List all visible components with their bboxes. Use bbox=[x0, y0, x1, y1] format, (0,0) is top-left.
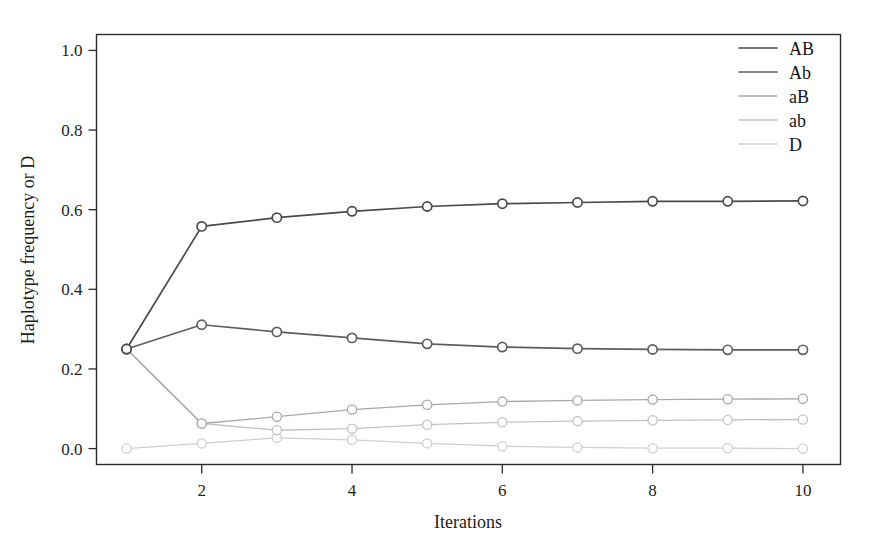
data-point-marker bbox=[197, 439, 206, 448]
data-point-marker bbox=[347, 424, 356, 433]
data-point-marker bbox=[798, 394, 807, 403]
data-point-marker bbox=[498, 342, 507, 351]
data-point-marker bbox=[648, 345, 657, 354]
legend-label-ab: ab bbox=[789, 111, 806, 131]
legend-label-Ab: Ab bbox=[789, 63, 811, 83]
legend-label-AB: AB bbox=[789, 39, 814, 59]
data-point-marker bbox=[197, 320, 206, 329]
data-point-marker bbox=[197, 419, 206, 428]
x-tick-label: 6 bbox=[498, 481, 507, 500]
data-point-marker bbox=[272, 426, 281, 435]
data-point-marker bbox=[423, 202, 432, 211]
chart-figure: 0.00.20.40.60.81.0 246810 ABAbaBabD Iter… bbox=[0, 0, 871, 559]
data-point-marker bbox=[648, 444, 657, 453]
y-axis-title: Haplotype frequency or D bbox=[18, 156, 38, 344]
data-point-marker bbox=[122, 444, 131, 453]
data-point-marker bbox=[498, 397, 507, 406]
x-tick-label: 10 bbox=[794, 481, 811, 500]
data-point-marker bbox=[648, 395, 657, 404]
data-point-marker bbox=[723, 415, 732, 424]
x-tick-label: 4 bbox=[348, 481, 357, 500]
data-point-marker bbox=[347, 405, 356, 414]
data-point-marker bbox=[573, 198, 582, 207]
y-tick-label: 0.4 bbox=[61, 280, 83, 299]
chart-background bbox=[0, 0, 871, 559]
data-point-marker bbox=[423, 339, 432, 348]
x-tick-label: 8 bbox=[648, 481, 657, 500]
line-chart: 0.00.20.40.60.81.0 246810 ABAbaBabD Iter… bbox=[0, 0, 871, 559]
data-point-marker bbox=[798, 444, 807, 453]
y-tick-label: 0.8 bbox=[61, 121, 82, 140]
x-axis-title: Iterations bbox=[434, 512, 502, 532]
data-point-marker bbox=[423, 400, 432, 409]
data-point-marker bbox=[272, 213, 281, 222]
data-point-marker bbox=[573, 417, 582, 426]
y-tick-label: 0.0 bbox=[61, 440, 82, 459]
data-point-marker bbox=[723, 197, 732, 206]
data-point-marker bbox=[498, 442, 507, 451]
data-point-marker bbox=[272, 412, 281, 421]
data-point-marker bbox=[723, 395, 732, 404]
data-point-marker bbox=[798, 415, 807, 424]
data-point-marker bbox=[573, 396, 582, 405]
data-point-marker bbox=[423, 420, 432, 429]
legend-label-aB: aB bbox=[789, 87, 809, 107]
x-tick-label: 2 bbox=[197, 481, 206, 500]
y-tick-label: 1.0 bbox=[61, 41, 82, 60]
data-point-marker bbox=[798, 345, 807, 354]
data-point-marker bbox=[723, 444, 732, 453]
data-point-marker bbox=[347, 207, 356, 216]
y-tick-label: 0.6 bbox=[61, 201, 82, 220]
data-point-marker bbox=[498, 199, 507, 208]
data-point-marker bbox=[122, 344, 131, 353]
data-point-marker bbox=[723, 345, 732, 354]
data-point-marker bbox=[798, 196, 807, 205]
legend-label-D: D bbox=[789, 135, 802, 155]
data-point-marker bbox=[272, 327, 281, 336]
data-point-marker bbox=[498, 418, 507, 427]
data-point-marker bbox=[573, 344, 582, 353]
data-point-marker bbox=[197, 222, 206, 231]
y-tick-label: 0.2 bbox=[61, 360, 82, 379]
data-point-marker bbox=[648, 197, 657, 206]
data-point-marker bbox=[347, 435, 356, 444]
data-point-marker bbox=[347, 333, 356, 342]
data-point-marker bbox=[573, 443, 582, 452]
data-point-marker bbox=[648, 416, 657, 425]
data-point-marker bbox=[423, 439, 432, 448]
